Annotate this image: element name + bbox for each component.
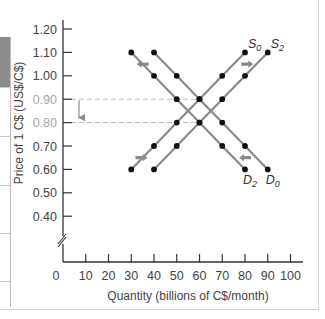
shift-arrows (79, 61, 253, 162)
point-S2 (151, 167, 157, 173)
point-D0 (242, 143, 248, 149)
supply-shift-arrow-top (241, 61, 253, 68)
y-tick-label: 0.50 (33, 186, 57, 200)
point-D2 (128, 50, 134, 56)
x-tick-label: 70 (215, 269, 229, 283)
point-D2 (219, 143, 225, 149)
x-tick-label: 20 (102, 269, 116, 283)
x-tick-label: 80 (238, 269, 252, 283)
x-tick-label: 50 (170, 269, 184, 283)
demand-shift-arrow-top (137, 61, 149, 68)
curve-label-S0: S0 (248, 37, 261, 53)
x-tick-label: 40 (147, 269, 161, 283)
x-tick-label: 60 (193, 269, 207, 283)
curves (131, 52, 268, 169)
y-tick-label: 0.80 (33, 116, 57, 130)
point-S0 (151, 143, 157, 149)
point-D0 (265, 167, 271, 173)
y-tick-label: 1.00 (33, 69, 57, 83)
y-tick-label: 0.40 (33, 210, 57, 224)
y-tick-label: 1.20 (33, 23, 57, 37)
point-D2 (151, 73, 157, 79)
point-D0 (151, 50, 157, 56)
x-tick-label: 10 (79, 269, 93, 283)
point-D2 (242, 167, 248, 173)
y-axis-title: Price of 1 C$ (US$/C$) (12, 62, 26, 185)
x-tick-label: 30 (124, 269, 138, 283)
point-S2 (242, 73, 248, 79)
point-S0 (197, 96, 203, 102)
point-S2 (174, 143, 180, 149)
curve-label-D0: D0 (266, 173, 280, 189)
point-S2 (219, 96, 225, 102)
point-S0 (219, 73, 225, 79)
point-D0 (219, 120, 225, 126)
curve-label-D2: D2 (243, 173, 257, 189)
point-D2 (174, 96, 180, 102)
demand-shift-arrow-bottom (239, 154, 251, 161)
data-points (128, 50, 270, 173)
supply-demand-chart: 0.400.500.600.700.800.901.001.101.200102… (0, 0, 325, 319)
point-S2 (197, 120, 203, 126)
x-tick-label: 90 (261, 269, 275, 283)
point-D0 (174, 73, 180, 79)
x-tick-label: 100 (280, 269, 301, 283)
x-tick-label: 0 (53, 269, 60, 283)
point-S0 (128, 167, 134, 173)
curve-label-S2: S2 (271, 37, 284, 53)
y-tick-label: 1.10 (33, 46, 57, 60)
y-tick-label: 0.90 (33, 93, 57, 107)
y-tick-label: 0.70 (33, 140, 57, 154)
y-tick-label: 0.60 (33, 163, 57, 177)
point-S0 (174, 120, 180, 126)
axis-labels: 0.400.500.600.700.800.901.001.101.200102… (12, 23, 301, 304)
x-axis-title: Quantity (billions of C$/month) (107, 289, 268, 303)
